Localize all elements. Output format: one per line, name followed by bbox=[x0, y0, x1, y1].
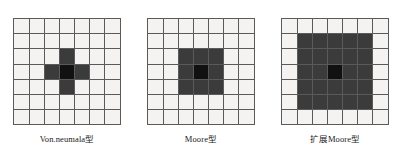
grid-wrapper-moore bbox=[147, 18, 254, 125]
grid-cell bbox=[282, 65, 296, 79]
grid-cell bbox=[14, 65, 28, 79]
grid-cell bbox=[164, 80, 178, 94]
grid-cell bbox=[282, 34, 296, 48]
grid-cell bbox=[164, 95, 178, 109]
panel-caption-von-neumann: Von.neumala型 bbox=[40, 135, 95, 144]
grid-cell bbox=[239, 110, 253, 124]
grid-cell bbox=[164, 19, 178, 33]
grid-cell bbox=[328, 80, 342, 94]
grid-cell bbox=[60, 19, 74, 33]
grid-cell bbox=[14, 34, 28, 48]
grid-cell bbox=[282, 110, 296, 124]
grid-cell bbox=[30, 49, 44, 63]
grid-cell bbox=[313, 49, 327, 63]
grid-cell bbox=[194, 49, 208, 63]
grid-cell bbox=[209, 49, 223, 63]
grid-cell bbox=[194, 19, 208, 33]
grid-cell bbox=[298, 95, 312, 109]
grid-cell bbox=[179, 49, 193, 63]
grid-cell bbox=[224, 110, 238, 124]
grid-cell bbox=[328, 110, 342, 124]
grid-cell bbox=[282, 80, 296, 94]
grid-cell bbox=[373, 110, 387, 124]
grid-cell bbox=[45, 95, 59, 109]
grid-cell bbox=[60, 80, 74, 94]
grid-cell bbox=[105, 19, 119, 33]
grid-cell bbox=[90, 80, 104, 94]
grid-cell bbox=[313, 19, 327, 33]
grid-cell bbox=[239, 95, 253, 109]
grid-cell bbox=[358, 19, 372, 33]
panel-von-neumann: Von.neumala型 bbox=[0, 0, 134, 144]
grid-cell bbox=[358, 34, 372, 48]
grid-cell bbox=[75, 34, 89, 48]
grid-cell bbox=[194, 34, 208, 48]
grid-cell bbox=[313, 95, 327, 109]
grid-cell bbox=[239, 34, 253, 48]
grid-cell bbox=[239, 49, 253, 63]
grid-cell bbox=[224, 19, 238, 33]
grid-cell bbox=[282, 49, 296, 63]
grid-cell bbox=[224, 95, 238, 109]
cell-grid-extended-moore bbox=[282, 19, 387, 124]
grid-cell bbox=[179, 19, 193, 33]
grid-cell bbox=[209, 65, 223, 79]
cell-grid-moore bbox=[148, 19, 253, 124]
grid-cell bbox=[148, 80, 162, 94]
grid-cell bbox=[45, 49, 59, 63]
panel-caption-extended-moore: 扩展Moore型 bbox=[310, 135, 360, 144]
panel-extended-moore: 扩展Moore型 bbox=[268, 0, 402, 144]
grid-cell bbox=[105, 110, 119, 124]
grid-cell bbox=[239, 19, 253, 33]
grid-cell bbox=[30, 65, 44, 79]
grid-cell bbox=[239, 80, 253, 94]
grid-cell bbox=[224, 49, 238, 63]
grid-cell bbox=[45, 19, 59, 33]
grid-cell bbox=[209, 34, 223, 48]
grid-cell bbox=[75, 95, 89, 109]
panel-caption-moore: Moore型 bbox=[185, 135, 217, 144]
grid-cell bbox=[148, 110, 162, 124]
grid-cell bbox=[373, 49, 387, 63]
grid-cell bbox=[30, 95, 44, 109]
grid-cell bbox=[373, 19, 387, 33]
grid-cell bbox=[224, 65, 238, 79]
grid-cell bbox=[298, 19, 312, 33]
grid-cell bbox=[298, 110, 312, 124]
grid-cell bbox=[75, 49, 89, 63]
grid-cell bbox=[194, 65, 208, 79]
grid-cell bbox=[148, 34, 162, 48]
grid-cell bbox=[373, 34, 387, 48]
grid-cell bbox=[194, 80, 208, 94]
grid-cell bbox=[60, 34, 74, 48]
grid-cell bbox=[30, 110, 44, 124]
grid-cell bbox=[343, 34, 357, 48]
grid-cell bbox=[358, 80, 372, 94]
grid-cell bbox=[179, 95, 193, 109]
grid-cell bbox=[298, 49, 312, 63]
grid-cell bbox=[343, 19, 357, 33]
grid-cell bbox=[224, 80, 238, 94]
grid-wrapper-extended-moore bbox=[281, 18, 388, 125]
grid-cell bbox=[358, 95, 372, 109]
grid-cell bbox=[298, 34, 312, 48]
grid-cell bbox=[313, 34, 327, 48]
grid-cell bbox=[14, 95, 28, 109]
grid-cell bbox=[45, 110, 59, 124]
grid-cell bbox=[30, 19, 44, 33]
grid-cell bbox=[90, 19, 104, 33]
grid-cell bbox=[90, 49, 104, 63]
grid-cell bbox=[343, 49, 357, 63]
grid-cell bbox=[90, 34, 104, 48]
grid-cell bbox=[373, 65, 387, 79]
grid-cell bbox=[209, 95, 223, 109]
grid-cell bbox=[105, 49, 119, 63]
grid-cell bbox=[209, 19, 223, 33]
grid-cell bbox=[30, 34, 44, 48]
grid-cell bbox=[14, 19, 28, 33]
grid-cell bbox=[298, 80, 312, 94]
grid-cell bbox=[328, 49, 342, 63]
grid-cell bbox=[343, 80, 357, 94]
grid-cell bbox=[209, 80, 223, 94]
grid-cell bbox=[343, 95, 357, 109]
